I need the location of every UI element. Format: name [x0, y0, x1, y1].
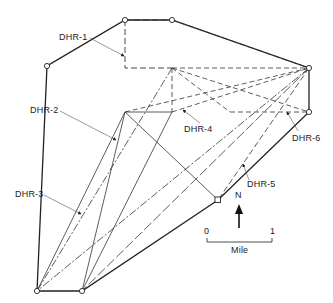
label-dhr-3: DHR-3	[15, 189, 44, 199]
station-marker	[122, 17, 127, 22]
label-dhr-2: DHR-2	[30, 105, 59, 115]
scale-bar	[207, 238, 272, 242]
station-marker	[215, 197, 221, 203]
label-dhr-1: DHR-1	[59, 32, 88, 42]
stations	[34, 17, 311, 293]
station-marker	[169, 17, 174, 22]
dhr-4-lines	[125, 68, 309, 112]
label-dhr-5: DHR-5	[247, 179, 276, 189]
station-marker	[44, 63, 49, 68]
north-label: N	[235, 190, 242, 200]
scale-unit-label: Mile	[231, 245, 248, 255]
dhr-1-lines	[125, 20, 309, 68]
boundary	[37, 20, 309, 291]
station-marker	[306, 109, 311, 114]
label-dhr-6: DHR-6	[292, 133, 321, 143]
station-marker	[34, 288, 39, 293]
label-dhr-4: DHR-4	[184, 124, 213, 134]
north-arrow-icon	[235, 204, 243, 228]
station-marker	[306, 65, 311, 70]
scale-start-label: 0	[204, 226, 209, 236]
scale-end-label: 1	[270, 226, 275, 236]
station-marker	[79, 288, 84, 293]
survey-network-diagram	[0, 0, 333, 303]
